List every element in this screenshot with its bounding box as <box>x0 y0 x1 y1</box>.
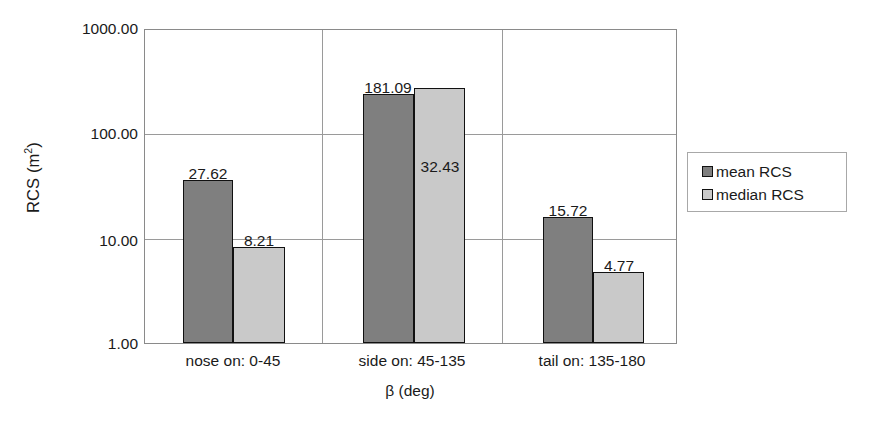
bar-label-median-nose-on: 8.21 <box>244 232 274 250</box>
bar-median-tail-on <box>593 272 644 343</box>
x-tick-label-nose-on: nose on: 0-45 <box>186 352 281 370</box>
y-tick-label-100: 100.00 <box>38 125 138 143</box>
y-tick-label-1: 1.00 <box>38 335 138 353</box>
legend-label-mean-rcs: mean RCS <box>716 163 792 181</box>
legend-item-mean-rcs: mean RCS <box>702 160 846 183</box>
bar-mean-side-on <box>363 94 414 343</box>
bar-label-mean-nose-on: 27.62 <box>189 165 228 183</box>
y-tick-label-10: 10.00 <box>38 232 138 250</box>
x-tick-label-side-on: side on: 45-135 <box>359 352 466 370</box>
x-tick-label-tail-on: tail on: 135-180 <box>539 352 646 370</box>
bar-label-median-side-on: 32.43 <box>421 158 460 176</box>
y-axis-title-exponent: 2 <box>22 148 34 154</box>
rcs-bar-chart-figure: RCS (m2) 1000.00 100.00 10.00 1.00 27.62… <box>0 0 875 426</box>
legend: mean RCS median RCS <box>687 152 847 212</box>
legend-item-median-rcs: median RCS <box>702 183 846 206</box>
x-axis-title: β (deg) <box>385 382 434 400</box>
y-axis-tick-labels: 1000.00 100.00 10.00 1.00 <box>34 0 138 426</box>
legend-swatch-icon-mean-rcs <box>702 166 713 177</box>
bar-median-side-on <box>414 88 465 343</box>
legend-swatch-icon-median-rcs <box>702 189 713 200</box>
bar-median-nose-on <box>233 247 285 343</box>
bar-label-mean-side-on: 181.09 <box>364 79 411 97</box>
bar-mean-nose-on <box>183 180 233 343</box>
plot-area: 27.62 8.21 181.09 32.43 15.72 4.77 <box>144 29 677 344</box>
category-separator-1 <box>322 30 323 343</box>
category-separator-2 <box>502 30 503 343</box>
bar-label-mean-tail-on: 15.72 <box>549 202 588 220</box>
y-tick-label-1000: 1000.00 <box>38 20 138 38</box>
bar-mean-tail-on <box>543 217 593 343</box>
legend-label-median-rcs: median RCS <box>716 186 804 204</box>
bar-label-median-tail-on: 4.77 <box>604 257 634 275</box>
